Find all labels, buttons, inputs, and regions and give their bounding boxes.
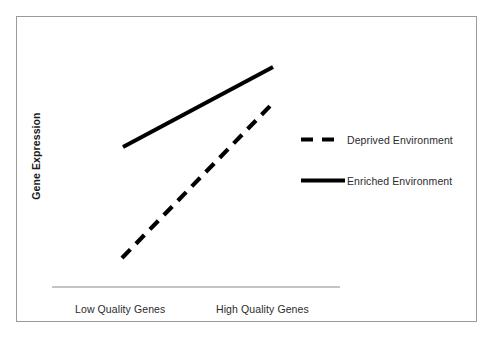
chart-figure: Gene Expression Low Quality Genes High Q… xyxy=(0,0,496,340)
legend-item-enriched-environment: Enriched Environment xyxy=(347,175,452,187)
chart-plot-area xyxy=(0,0,496,340)
series-line-deprived xyxy=(122,103,273,258)
x-tick-label-low-quality: Low Quality Genes xyxy=(75,303,165,315)
y-axis-label: Gene Expression xyxy=(30,86,42,226)
series-line-enriched xyxy=(123,67,273,147)
x-tick-label-high-quality: High Quality Genes xyxy=(216,303,309,315)
legend-item-deprived-environment: Deprived Environment xyxy=(347,134,453,146)
